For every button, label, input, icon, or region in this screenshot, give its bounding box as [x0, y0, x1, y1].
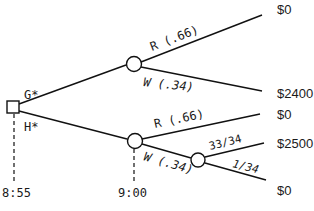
branch-h-w-label: W (.34) [142, 149, 194, 176]
branch-hw-lose-label: 1/34 [231, 157, 260, 176]
payoff-h-r: $0 [277, 107, 291, 122]
option-g-label: G* [24, 88, 38, 102]
time-label-900: 9:00 [118, 186, 147, 200]
payoff-g-w: $2400 [277, 86, 313, 101]
chance-node-g-circle [127, 57, 142, 72]
payoff-g-r: $0 [277, 2, 291, 17]
payoff-hw-lose: $0 [277, 183, 291, 198]
chance-node-h-circle [128, 134, 143, 149]
branch-g-w-label: W (.34) [143, 75, 195, 94]
decision-tree-diagram: G* H* R (.66) W (.34) R (.66) W (.34) 33… [0, 0, 314, 211]
time-label-855: 8:55 [2, 186, 31, 200]
decision-node-square [7, 101, 19, 113]
option-h-label: H* [24, 120, 38, 134]
payoff-hw-win: $2500 [277, 136, 313, 151]
